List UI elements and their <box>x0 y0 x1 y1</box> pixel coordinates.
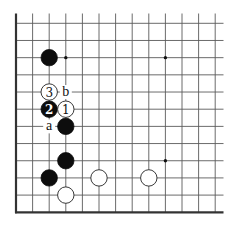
white-stone-icon <box>91 170 107 186</box>
star-point-icon <box>64 56 67 59</box>
star-point-icon <box>164 56 167 59</box>
black-stone <box>41 49 57 65</box>
black-stone-icon <box>58 153 74 169</box>
black-stone-icon <box>41 170 57 186</box>
white-stone <box>58 187 74 203</box>
black-stone-icon <box>58 118 74 134</box>
black-stone <box>41 170 57 186</box>
white-stone-move-1: 1 <box>58 101 74 117</box>
point-label-a: a <box>43 118 55 133</box>
black-stone-move-2: 2 <box>41 101 57 117</box>
black-stone <box>58 153 74 169</box>
star-point-icon <box>164 159 167 162</box>
point-label-b: b <box>60 84 72 99</box>
go-board-diagram: ba 321 <box>0 0 237 228</box>
move-number: 1 <box>62 103 70 117</box>
white-stone-icon <box>141 170 157 186</box>
white-stone <box>141 170 157 186</box>
white-stone-move-3: 3 <box>41 84 57 100</box>
move-number: 3 <box>45 86 53 100</box>
move-number: 2 <box>45 103 53 117</box>
point-label-text: a <box>46 118 53 133</box>
black-stone-icon <box>41 49 57 65</box>
point-label-text: b <box>62 84 69 99</box>
white-stone <box>91 170 107 186</box>
black-stone <box>58 118 74 134</box>
white-stone-icon <box>58 187 74 203</box>
